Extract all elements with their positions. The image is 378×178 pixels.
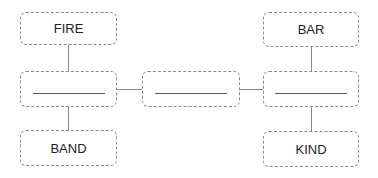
node-fire: FIRE <box>20 12 117 45</box>
node-center-blank <box>142 71 240 107</box>
node-left-blank <box>20 71 117 107</box>
connector-center-right <box>240 89 263 90</box>
connector-left-center <box>117 89 142 90</box>
connector-left-band <box>68 107 69 130</box>
connector-bar-right <box>311 47 312 71</box>
node-label: KIND <box>295 142 326 157</box>
node-bar: BAR <box>263 12 359 47</box>
blank-answer-line <box>33 93 105 94</box>
node-band: BAND <box>20 130 117 166</box>
node-kind: KIND <box>263 131 359 167</box>
blank-answer-line <box>275 93 347 94</box>
node-label: BAR <box>298 22 325 37</box>
node-label: BAND <box>50 141 86 156</box>
blank-answer-line <box>155 93 227 94</box>
connector-right-kind <box>311 107 312 131</box>
node-label: FIRE <box>54 21 84 36</box>
node-right-blank <box>263 71 359 107</box>
connector-fire-left <box>68 45 69 71</box>
